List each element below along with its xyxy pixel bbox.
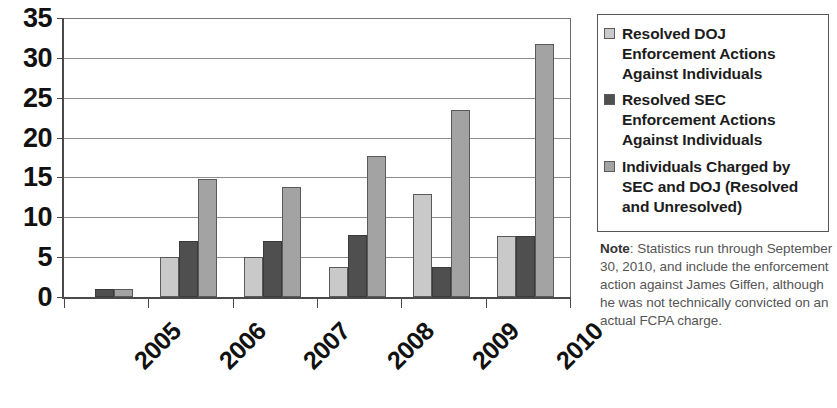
legend-entry-0[interactable]: Resolved DOJ Enforcement Actions Against… [604,24,822,83]
y-axis-tick-mark [57,58,64,59]
bar-2009-series-1 [432,267,451,297]
y-axis-tick-label: 20 [0,124,52,151]
bar-2006-series-0 [160,257,179,297]
bar-2008-series-2 [367,156,386,297]
bar-2009-series-0 [413,194,432,297]
gridline [64,177,570,178]
legend-entry-2[interactable]: Individuals Charged by SEC and DOJ (Reso… [604,157,822,216]
gridline [64,217,570,218]
bar-2006-series-2 [198,179,217,297]
plot-area [62,18,571,299]
y-axis-tick-label: 5 [0,244,52,271]
x-axis-tick-label-2008: 2008 [383,318,439,374]
bar-2007-series-2 [282,187,301,297]
y-axis-tick-mark [57,18,64,19]
bar-2008-series-0 [329,267,348,297]
y-axis-tick-label: 35 [0,5,52,32]
x-axis-tick-label-2009: 2009 [467,318,523,374]
y-axis-tick-label: 25 [0,84,52,111]
y-axis-tick-labels: 05101520253035 [0,0,52,310]
bar-2010-series-1 [516,236,535,297]
note-label: Note [600,241,630,256]
bar-2005-series-2 [114,289,133,297]
legend-label-0: Resolved DOJ Enforcement Actions Against… [622,24,822,83]
x-axis-tick-label-2006: 2006 [214,318,270,374]
gridline [64,257,570,258]
x-axis-tick-mark [570,297,571,308]
y-axis-tick-label: 15 [0,164,52,191]
gridline [64,58,570,59]
chart-plot-region: 05101520253035 200520062007200820092010 [0,0,590,408]
x-axis-tick-label-2005: 2005 [130,318,186,374]
legend-label-1: Resolved SEC Enforcement Actions Against… [622,90,822,149]
light-gray-swatch [604,28,615,39]
medium-gray-swatch [604,161,615,172]
bar-group-2010 [497,18,554,297]
x-axis-tick-label-2010: 2010 [552,318,608,374]
bar-2008-series-1 [348,235,367,297]
bar-2010-series-0 [497,236,516,297]
legend-entry-1[interactable]: Resolved SEC Enforcement Actions Against… [604,90,822,149]
y-axis-tick-mark [57,177,64,178]
gridline [64,98,570,99]
chart-legend: Resolved DOJ Enforcement Actions Against… [597,14,829,232]
bar-2005-series-1 [95,289,114,297]
fcpa-enforcement-bar-chart: 05101520253035 200520062007200820092010 … [0,0,837,408]
bar-group-2005 [76,18,133,297]
bar-2006-series-1 [179,241,198,297]
y-axis-tick-mark [57,138,64,139]
bar-2010-series-2 [535,44,554,297]
x-axis-tick-labels: 200520062007200820092010 [62,300,568,408]
bar-2009-series-2 [451,110,470,297]
legend-label-2: Individuals Charged by SEC and DOJ (Reso… [622,157,822,216]
chart-note: Note: Statistics run through September 3… [600,240,835,330]
y-axis-tick-mark [57,257,64,258]
bar-group-2008 [329,18,386,297]
y-axis-tick-mark [57,297,64,298]
note-text: Statistics run through September 30, 201… [600,241,832,328]
bar-2007-series-0 [244,257,263,297]
gridline [64,18,570,19]
bar-group-2006 [160,18,217,297]
y-axis-tick-label: 30 [0,44,52,71]
y-axis-tick-mark [57,98,64,99]
y-axis-tick-label: 10 [0,204,52,231]
y-axis-tick-mark [57,217,64,218]
y-axis-tick-label: 0 [0,284,52,311]
bar-group-2007 [244,18,301,297]
bar-group-2009 [413,18,470,297]
gridline [64,138,570,139]
x-axis-tick-label-2007: 2007 [299,318,355,374]
dark-gray-swatch [604,94,615,105]
bar-2007-series-1 [263,241,282,297]
